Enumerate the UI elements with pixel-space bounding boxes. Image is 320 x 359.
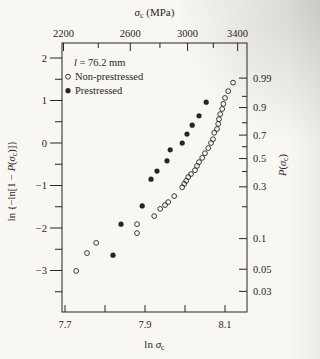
data-point-open-circle xyxy=(218,112,223,117)
data-point-open-circle xyxy=(158,206,163,211)
left-axis-tick-label: 0 xyxy=(42,138,47,149)
data-point-filled-circle xyxy=(204,100,209,105)
top-axis-tick-label: 2600 xyxy=(120,28,141,39)
left-axis-tick-label: −3 xyxy=(36,265,47,276)
right-axis-tick-label: 0.05 xyxy=(253,264,271,275)
top-axis: 2200260030003400σc (MPa) xyxy=(53,6,248,51)
legend-entry-label: Non-prestressed xyxy=(75,71,144,82)
bottom-axis-tick-label: 7.7 xyxy=(58,319,71,330)
weibull-probability-plot: 2200260030003400σc (MPa)7.77.98.1ln σc21… xyxy=(0,0,301,359)
data-point-filled-circle xyxy=(140,203,145,208)
data-point-open-circle xyxy=(231,80,236,85)
data-point-open-circle xyxy=(189,172,194,177)
top-axis-tick-label: 3400 xyxy=(227,28,248,39)
data-point-filled-circle xyxy=(148,177,153,182)
data-point-open-circle xyxy=(135,231,140,236)
data-point-open-circle xyxy=(85,251,90,256)
data-point-filled-circle xyxy=(110,253,115,258)
bottom-axis-tick-label: 7.9 xyxy=(138,319,151,330)
plot-frame xyxy=(62,43,247,312)
data-point-open-circle xyxy=(152,214,157,219)
legend-specimen-length-note: l = 76.2 mm xyxy=(74,57,125,68)
right-axis-tick-label: 0.5 xyxy=(253,153,266,164)
right-axis-tick-label: 0.1 xyxy=(253,233,266,244)
left-axis-tick-label: 1 xyxy=(42,95,47,106)
data-point-open-circle xyxy=(74,269,79,274)
data-point-filled-circle xyxy=(180,140,185,145)
legend-marker-open-circle xyxy=(66,74,71,79)
top-axis-title: σc (MPa) xyxy=(135,6,175,20)
left-axis-tick-label: 2 xyxy=(42,53,47,64)
right-axis-tick-label: 0.03 xyxy=(253,286,271,297)
data-point-filled-circle xyxy=(154,168,159,173)
data-point-filled-circle xyxy=(118,222,123,227)
data-point-open-circle xyxy=(216,121,221,126)
legend: l = 76.2 mmNon-prestressedPrestressed xyxy=(65,57,144,96)
bottom-axis-tick-label: 8.1 xyxy=(218,319,231,330)
data-point-open-circle xyxy=(209,141,214,146)
data-point-open-circle xyxy=(220,107,225,112)
right-axis-tick-label: 0.7 xyxy=(253,130,266,141)
series-prestressed xyxy=(110,100,208,258)
legend-marker-filled-circle xyxy=(65,88,70,93)
legend-entry-label: Prestressed xyxy=(75,85,123,96)
data-point-open-circle xyxy=(206,146,211,151)
series-non-prestressed xyxy=(74,80,236,273)
data-point-open-circle xyxy=(172,194,177,199)
left-axis: 210−1−2−3ln {−ln[1 − P(σc)]} xyxy=(6,53,62,292)
data-point-filled-circle xyxy=(190,123,195,128)
bottom-axis-title: ln σc xyxy=(144,338,165,352)
data-point-open-circle xyxy=(94,240,99,245)
data-point-open-circle xyxy=(193,168,198,173)
left-axis-tick-label: −2 xyxy=(36,223,47,234)
right-axis-title: P(σc) xyxy=(277,154,290,177)
left-axis-tick-label: −1 xyxy=(36,180,47,191)
right-axis-tick-label: 0.99 xyxy=(253,73,271,84)
data-point-filled-circle xyxy=(164,158,169,163)
right-axis-tick-label: 0.3 xyxy=(253,181,266,192)
data-point-open-circle xyxy=(135,222,140,227)
data-point-filled-circle xyxy=(184,131,189,136)
top-axis-tick-label: 2200 xyxy=(53,28,74,39)
left-axis-title: ln {−ln[1 − P(σc)]} xyxy=(6,141,19,221)
data-point-open-circle xyxy=(163,203,168,208)
data-point-open-circle xyxy=(203,151,208,156)
data-point-open-circle xyxy=(200,155,205,160)
chart-canvas: 2200260030003400σc (MPa)7.77.98.1ln σc21… xyxy=(0,0,301,359)
data-point-open-circle xyxy=(217,117,222,122)
data-point-filled-circle xyxy=(196,113,201,118)
right-axis-tick-label: 0.9 xyxy=(253,102,266,113)
data-point-open-circle xyxy=(212,130,217,135)
data-point-open-circle xyxy=(221,102,226,107)
data-point-open-circle xyxy=(223,96,228,101)
data-point-filled-circle xyxy=(168,147,173,152)
top-axis-tick-label: 3000 xyxy=(177,28,198,39)
data-point-open-circle xyxy=(226,89,231,94)
